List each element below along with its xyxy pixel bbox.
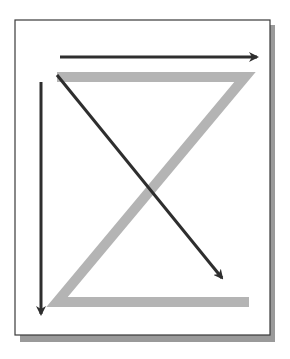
z-pattern-diagram — [0, 0, 290, 359]
page-frame — [15, 20, 270, 335]
